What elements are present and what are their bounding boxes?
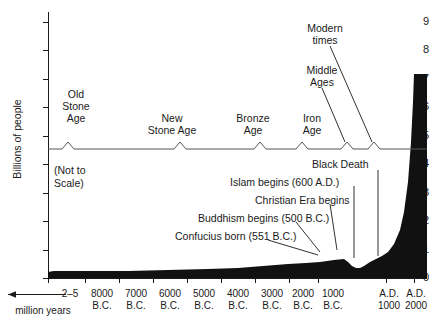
event-label-black-death: Black Death [312,158,369,170]
x-tick-mark-6 [255,278,256,283]
x-tick-mark-2 [119,278,120,283]
x-tick-mark-4 [187,278,188,283]
x-tick-mark-10 [414,278,415,283]
era-label-middle-ages: Middle Ages [296,64,348,88]
x-tick-mark-7 [289,278,290,283]
x-tick-mark-8 [318,278,319,283]
x-tick-mark-1 [85,278,86,283]
event-label-confucius-born: Confucius born (551 B.C.) [175,230,296,242]
x-tick-mark-0 [48,278,49,283]
event-label-islam-begins: Islam begins (600 A.D.) [230,176,339,188]
event-label-christian-era-begins: Christian Era begins [255,194,350,206]
time-range-caption: million years [4,305,82,316]
era-label-bronze-age: Bronze Age [226,112,280,136]
era-label-old-stone-age: Old Stone Age [52,88,100,124]
era-label-new-stone-age: New Stone Age [136,112,208,136]
era-divider-line [48,142,427,149]
era-label-modern-times: Modern times [294,22,356,46]
era-divider-band [48,138,427,156]
x-tick-label-10-line2: 2000 [394,300,434,312]
not-to-scale-note: (Not to Scale) [54,164,86,189]
x-tick-mark-3 [153,278,154,283]
x-tick-label-8-line1: 1000 [311,288,355,300]
era-label-iron-age: Iron Age [290,112,334,136]
event-label-buddhism-begins: Buddhism begins (500 B.C.) [198,212,329,224]
x-tick-label-10: A.D. 2000 [394,288,434,311]
x-tick-label-8-line2: B.C. [311,300,355,312]
time-range-arrow-icon [8,290,66,299]
y-axis-title: Billions of people [11,89,23,189]
x-tick-mark-9 [386,278,387,283]
x-tick-mark-5 [221,278,222,283]
x-axis-line [48,278,427,279]
x-tick-label-8: 1000 B.C. [311,288,355,311]
x-tick-label-10-line1: A.D. [394,288,434,300]
